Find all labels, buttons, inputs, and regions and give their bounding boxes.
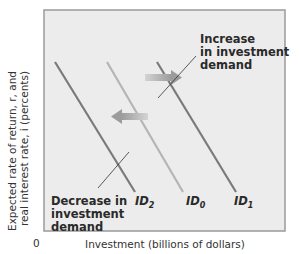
y-axis-label-line-1: Expected rate of return, r, and [6, 71, 18, 231]
y-axis-label-line-2: real interest rate, i (percents) [18, 71, 30, 226]
curve-label-id0: ID0 [186, 194, 205, 210]
increase-annotation: Increase in investment demand [200, 33, 289, 72]
decrease-annotation: Decrease in investment demand [51, 195, 127, 234]
y-axis-label: Expected rate of return, r, and real int… [4, 30, 40, 230]
curve-label-id0-sub: 0 [200, 201, 206, 210]
decrease-annotation-line-3: demand [51, 221, 127, 234]
curve-label-id1-sub: 1 [248, 201, 254, 210]
x-axis-label: Investment (billions of dollars) [0, 238, 300, 250]
curve-label-id2-main: ID [135, 194, 149, 208]
curve-label-id1: ID1 [234, 194, 253, 210]
increase-annotation-line-3: demand [200, 59, 289, 72]
curve-label-id2-sub: 2 [149, 201, 155, 210]
curve-label-id2: ID2 [135, 194, 154, 210]
curve-label-id0-main: ID [186, 194, 200, 208]
curve-label-id1-main: ID [234, 194, 248, 208]
investment-demand-chart: Expected rate of return, r, and real int… [0, 0, 300, 254]
